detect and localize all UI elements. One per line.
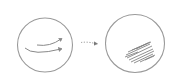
left-circle-node bbox=[18, 18, 73, 72]
diagram-canvas bbox=[0, 0, 178, 77]
shaded-region-icon bbox=[125, 42, 155, 63]
motion-arrows-icon bbox=[25, 39, 62, 53]
right-circle-node bbox=[106, 15, 165, 73]
sketch-diagram bbox=[0, 0, 178, 77]
dotted-arrow-connector bbox=[81, 42, 98, 45]
